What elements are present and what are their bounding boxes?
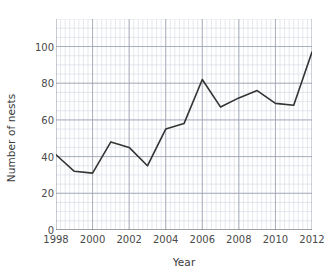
minor-gridlines	[56, 19, 312, 230]
x-tick-label: 2004	[146, 234, 186, 245]
x-tick-label: 2002	[109, 234, 149, 245]
x-tick-label: 2006	[182, 234, 222, 245]
x-tick-label: 2012	[292, 234, 326, 245]
x-tick-label: 2010	[255, 234, 295, 245]
y-tick-label: 60	[14, 114, 54, 125]
x-axis-title: Year	[55, 256, 313, 268]
x-tick-label: 1998	[36, 234, 76, 245]
line-chart: Number of nests Year 020406080100 199820…	[0, 0, 326, 276]
y-tick-label: 40	[14, 151, 54, 162]
y-tick-label: 100	[14, 41, 54, 52]
plot-area	[56, 19, 312, 230]
plot-svg	[56, 19, 312, 230]
y-tick-label: 20	[14, 188, 54, 199]
x-tick-label: 2000	[73, 234, 113, 245]
x-tick-label: 2008	[219, 234, 259, 245]
y-tick-label: 80	[14, 78, 54, 89]
